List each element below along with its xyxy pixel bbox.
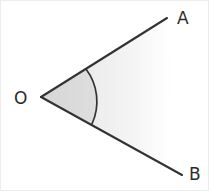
angle-sector-fill: [41, 69, 97, 124]
ray-label-a: A: [177, 8, 189, 28]
vertex-label-o: O: [14, 88, 27, 108]
angle-diagram-canvas: O A B: [0, 0, 209, 191]
angle-diagram-svg: O A B: [0, 0, 209, 191]
ray-label-b: B: [189, 164, 201, 184]
